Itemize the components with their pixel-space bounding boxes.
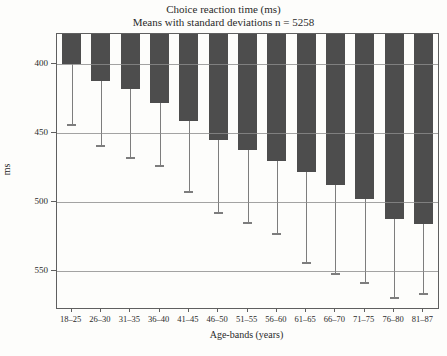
bar-46-50	[209, 34, 228, 140]
x-tick-label-36-40: 36–40	[144, 314, 174, 324]
error-bar-31-35	[130, 89, 131, 158]
x-tick-label-76-80: 76–80	[378, 314, 408, 324]
x-tick-label-81-87: 81–87	[407, 314, 437, 324]
bar-71-75	[355, 34, 374, 199]
error-bar-cap-46-50	[214, 212, 223, 214]
error-bar-cap-71-75	[360, 282, 369, 284]
error-bar-66-70	[335, 185, 336, 273]
y-axis-tick-400	[51, 63, 56, 64]
bar-76-80	[385, 34, 404, 219]
bar-31-35	[121, 34, 140, 89]
y-tick-label-450: 450	[22, 127, 48, 137]
error-bar-cap-66-70	[331, 273, 340, 275]
y-tick-label-400: 400	[22, 58, 48, 68]
bar-26-30	[91, 34, 110, 81]
y-axis-label: ms	[1, 150, 12, 190]
x-tick-label-46-50: 46–50	[202, 314, 232, 324]
x-axis-tick-56-60	[276, 308, 277, 312]
gridline-550	[57, 271, 438, 272]
error-bar-cap-36-40	[155, 165, 164, 167]
x-axis-tick-41-45	[188, 308, 189, 312]
x-tick-label-56-60: 56–60	[261, 314, 291, 324]
error-bar-61-65	[306, 172, 307, 263]
error-bar-76-80	[394, 219, 395, 299]
x-axis-tick-46-50	[217, 308, 218, 312]
error-bar-cap-41-45	[184, 191, 193, 193]
y-axis-tick-500	[51, 201, 56, 202]
x-axis-tick-61-65	[305, 308, 306, 312]
bar-41-45	[179, 34, 198, 121]
x-axis-tick-51-55	[247, 308, 248, 312]
x-axis-tick-71-75	[364, 308, 365, 312]
error-bar-18-25	[72, 64, 73, 125]
x-tick-label-31-35: 31–35	[114, 314, 144, 324]
x-axis-tick-66-70	[334, 308, 335, 312]
x-tick-label-18-25: 18–25	[56, 314, 86, 324]
x-axis-tick-18-25	[71, 308, 72, 312]
x-axis-tick-81-87	[422, 308, 423, 312]
x-tick-label-66-70: 66–70	[319, 314, 349, 324]
y-tick-label-550: 550	[22, 265, 48, 275]
x-tick-label-71-75: 71–75	[349, 314, 379, 324]
x-axis-tick-76-80	[393, 308, 394, 312]
error-bar-cap-31-35	[126, 157, 135, 159]
bar-81-87	[414, 34, 433, 224]
error-bar-36-40	[160, 103, 161, 166]
chart-subtitle: Means with standard deviations n = 5258	[0, 16, 447, 29]
error-bar-cap-76-80	[390, 297, 399, 299]
bar-18-25	[62, 34, 81, 64]
error-bar-56-60	[277, 161, 278, 234]
error-bar-cap-81-87	[419, 293, 428, 295]
error-bar-81-87	[423, 224, 424, 294]
x-axis-tick-26-30	[100, 308, 101, 312]
error-bar-cap-26-30	[96, 145, 105, 147]
bar-61-65	[297, 34, 316, 172]
bar-36-40	[150, 34, 169, 103]
error-bar-cap-51-55	[243, 222, 252, 224]
gridline-400	[57, 64, 438, 65]
x-tick-label-61-65: 61–65	[290, 314, 320, 324]
y-tick-label-500: 500	[22, 196, 48, 206]
error-bar-51-55	[248, 150, 249, 223]
error-bar-41-45	[189, 121, 190, 193]
error-bar-cap-56-60	[272, 233, 281, 235]
y-axis-tick-450	[51, 132, 56, 133]
y-axis-tick-550	[51, 270, 56, 271]
x-tick-label-41-45: 41–45	[173, 314, 203, 324]
x-tick-label-51-55: 51–55	[232, 314, 262, 324]
error-bar-cap-18-25	[67, 124, 76, 126]
x-axis-label: Age-bands (years)	[56, 329, 437, 340]
x-tick-label-26-30: 26–30	[85, 314, 115, 324]
bar-56-60	[267, 34, 286, 161]
error-bar-26-30	[101, 81, 102, 146]
error-bar-cap-61-65	[302, 262, 311, 264]
gridline-500	[57, 202, 438, 203]
gridline-450	[57, 133, 438, 134]
x-axis-tick-36-40	[159, 308, 160, 312]
x-axis-tick-31-35	[129, 308, 130, 312]
bar-66-70	[326, 34, 345, 185]
plot-area	[56, 33, 439, 309]
choice-reaction-time-figure: Choice reaction time (ms) Means with sta…	[0, 0, 447, 356]
chart-title: Choice reaction time (ms)	[0, 3, 447, 16]
